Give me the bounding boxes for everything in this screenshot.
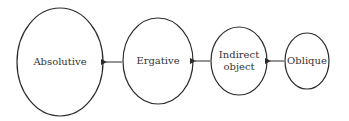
node-indirect-object-label-line2: object [223,61,254,72]
node-oblique-label: Oblique [287,55,327,66]
node-absolutive-label: Absolutive [32,56,86,67]
node-ergative-label: Ergative [136,55,179,66]
node-indirect-object-label-line1: Indirect [219,49,259,60]
case-hierarchy-diagram: Absolutive Ergative Indirect object Obli… [0,0,349,121]
node-ergative: Ergative [123,18,193,104]
node-indirect-object: Indirect object [211,27,267,95]
node-oblique: Oblique [285,33,329,89]
node-absolutive: Absolutive [17,8,103,116]
